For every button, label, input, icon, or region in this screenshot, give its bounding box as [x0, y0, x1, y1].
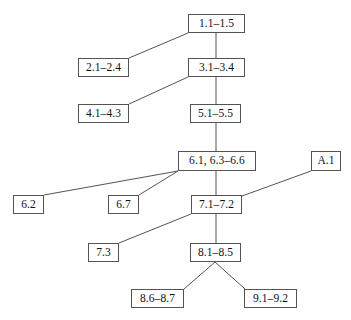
node-n5[interactable]: 5.1–5.5 — [190, 104, 241, 123]
node-n4[interactable]: 4.1–4.3 — [78, 104, 129, 123]
node-n62[interactable]: 6.2 — [13, 195, 44, 214]
node-n67[interactable]: 6.7 — [108, 195, 139, 214]
dependency-diagram: 1.1–1.52.1–2.43.1–3.44.1–4.35.1–5.56.1, … — [0, 0, 351, 320]
node-n8[interactable]: 8.1–8.5 — [190, 243, 241, 262]
node-n3[interactable]: 3.1–3.4 — [188, 58, 245, 77]
node-n6[interactable]: 6.1, 6.3–6.6 — [178, 151, 256, 171]
node-n7[interactable]: 7.1–7.2 — [191, 195, 242, 214]
node-n91[interactable]: 9.1–9.2 — [244, 289, 297, 308]
node-n73[interactable]: 7.3 — [88, 243, 119, 262]
node-na[interactable]: A.1 — [311, 151, 341, 171]
edge-n7-n73 — [119, 214, 191, 243]
node-n1[interactable]: 1.1–1.5 — [188, 14, 245, 33]
edge-n8-n86 — [184, 262, 215, 289]
edge-n6-n62 — [44, 171, 178, 195]
node-n2[interactable]: 2.1–2.4 — [78, 58, 129, 77]
node-n86[interactable]: 8.6–8.7 — [131, 289, 184, 308]
edge-n1-n2 — [129, 33, 188, 58]
edge-n3-n4 — [129, 77, 188, 104]
edge-n8-n91 — [215, 262, 245, 289]
edge-n6-n67 — [139, 171, 178, 195]
edge-layer — [0, 0, 351, 320]
edge-na-n7 — [242, 171, 311, 196]
